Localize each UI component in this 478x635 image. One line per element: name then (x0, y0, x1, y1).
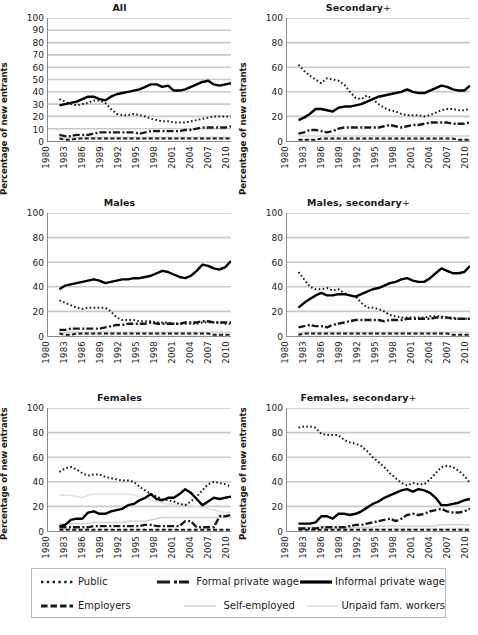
solid-line-swatch (299, 577, 333, 587)
x-tick-label: 1995 (132, 536, 141, 559)
x-tick-label: 1998 (389, 536, 398, 559)
x-tick-label: 1995 (371, 536, 380, 559)
legend-item-formal-private-wage: Formal private wage (156, 569, 299, 594)
x-tick-label: 2007 (204, 341, 213, 364)
panel-title-text: Secondary (326, 2, 383, 13)
legend-row-2: Employers Self-employed Unpaid fam. work… (32, 593, 445, 618)
y-tick-label: 40 (18, 283, 44, 292)
x-tick-label: 2010 (461, 536, 470, 559)
x-tick-label: 2004 (425, 536, 434, 559)
x-tick-label: 2004 (186, 341, 195, 364)
y-tick-label: 80 (257, 38, 283, 47)
x-tick-label: 2010 (461, 146, 470, 169)
legend: Public Formal private wage Informal priv… (31, 568, 446, 618)
legend-label: Employers (78, 600, 131, 611)
x-tick-label: 2001 (168, 536, 177, 559)
plot-wrapper: 020406080100 (239, 14, 470, 142)
x-tick-label: 2004 (425, 146, 434, 169)
x-tick-label: 2001 (407, 341, 416, 364)
y-tick-label: 100 (18, 14, 44, 23)
y-tick-label: 60 (257, 63, 283, 72)
x-tick-label: 1995 (371, 146, 380, 169)
y-tick-label: 100 (257, 14, 283, 23)
y-tick-label: 100 (18, 404, 44, 413)
x-tick-label: 1989 (96, 146, 105, 169)
x-tick-label: 2004 (425, 341, 434, 364)
y-tick-label: 40 (18, 88, 44, 97)
plot-wrapper: 020406080100 (239, 209, 470, 337)
panel-title-suffix: + (402, 197, 410, 208)
y-tick-label: 80 (257, 428, 283, 437)
plot-area (47, 213, 231, 337)
x-tick-label: 2007 (443, 146, 452, 169)
x-tick-label: 2001 (407, 146, 416, 169)
light-solid-line-swatch (183, 601, 217, 611)
panel-title: Males, secondary+ (239, 197, 478, 208)
panel-title: Secondary+ (239, 2, 478, 13)
x-axis-ticks: 1980198319861989199219951998200120042007… (47, 341, 239, 385)
x-tick-label: 1983 (60, 341, 69, 364)
legend-item-informal-private-wage: Informal private wage (299, 569, 445, 594)
x-tick-label: 1983 (60, 536, 69, 559)
dotted-line-swatch (40, 577, 74, 587)
plot-wrapper: 020406080100 (0, 404, 231, 532)
x-tick-label: 1980 (281, 536, 290, 559)
x-tick-label: 1986 (78, 341, 87, 364)
x-tick-label: 2004 (186, 536, 195, 559)
x-tick-label: 1980 (42, 341, 51, 364)
y-tick-label: 60 (257, 453, 283, 462)
panel-title-suffix: + (408, 392, 416, 403)
panel-title: All (0, 2, 239, 13)
x-tick-label: 1992 (114, 341, 123, 364)
x-tick-label: 1983 (299, 536, 308, 559)
panel-title: Males (0, 197, 239, 208)
x-tick-label: 2007 (443, 536, 452, 559)
x-tick-label: 1998 (150, 536, 159, 559)
panel-males-secondary-plus: Males, secondary+ Percentage of new entr… (239, 195, 478, 390)
x-tick-label: 1995 (132, 341, 141, 364)
x-tick-label: 1980 (281, 146, 290, 169)
legend-item-unpaid-fam-workers: Unpaid fam. workers (306, 593, 446, 618)
legend-row-1: Public Formal private wage Informal priv… (32, 569, 445, 594)
y-tick-label: 40 (257, 478, 283, 487)
legend-label: Self-employed (223, 600, 294, 611)
x-tick-label: 1998 (150, 146, 159, 169)
y-tick-label: 90 (18, 26, 44, 35)
y-tick-label: 10 (18, 125, 44, 134)
y-tick-label: 80 (18, 233, 44, 242)
x-tick-label: 1980 (42, 146, 51, 169)
legend-label: Formal private wage (196, 576, 299, 587)
panel-males: Males Percentage of new entrants 0204060… (0, 195, 239, 390)
y-tick-label: 20 (18, 308, 44, 317)
y-tick-label: 100 (257, 209, 283, 218)
panel-title-text: Females, secondary (300, 392, 408, 403)
y-axis-label: Percentage of new entrants (0, 67, 12, 195)
panel-all: All Percentage of new entrants 010203040… (0, 0, 239, 195)
panel-secondary-plus: Secondary+ Percentage of new entrants 02… (239, 0, 478, 195)
x-tick-label: 1983 (299, 341, 308, 364)
plot-area (286, 408, 470, 532)
legend-label: Unpaid fam. workers (342, 600, 446, 611)
y-tick-label: 20 (257, 113, 283, 122)
x-tick-label: 1989 (335, 536, 344, 559)
x-axis-ticks: 1980198319861989199219951998200120042007… (47, 146, 239, 190)
panel-title-text: Males (104, 197, 136, 208)
y-tick-label: 40 (257, 88, 283, 97)
panel-grid: All Percentage of new entrants 010203040… (0, 0, 478, 556)
x-tick-label: 2010 (222, 536, 231, 559)
x-tick-label: 1992 (353, 341, 362, 364)
x-tick-label: 1986 (78, 536, 87, 559)
plot-area (286, 18, 470, 142)
panel-title: Females, secondary+ (239, 392, 478, 403)
x-tick-label: 2007 (443, 341, 452, 364)
light-solid-line-swatch (306, 601, 340, 611)
y-tick-label: 60 (257, 258, 283, 267)
panel-females: Females Percentage of new entrants 02040… (0, 390, 239, 556)
x-tick-label: 1980 (42, 536, 51, 559)
dash-dot-line-swatch (156, 577, 190, 587)
legend-label: Informal private wage (335, 576, 445, 587)
x-axis-ticks: 1980198319861989199219951998200120042007… (286, 146, 478, 190)
x-tick-label: 1998 (389, 341, 398, 364)
dashed-line-swatch (40, 601, 74, 611)
x-tick-label: 1992 (114, 146, 123, 169)
